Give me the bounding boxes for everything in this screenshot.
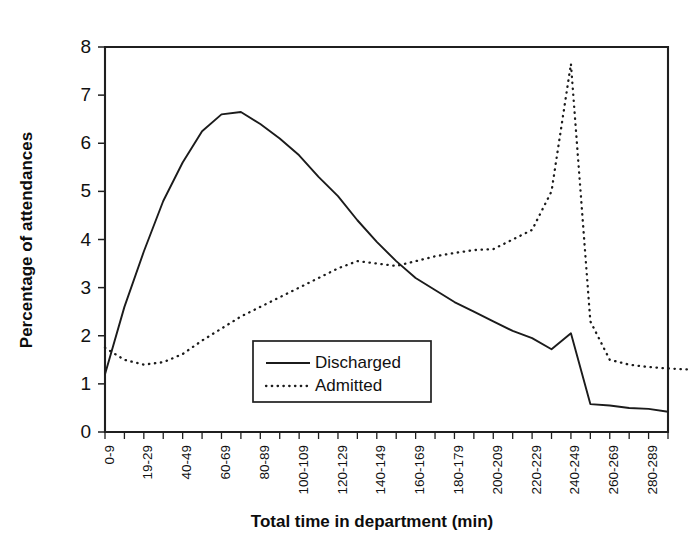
y-tick-label-2: 2: [80, 325, 91, 346]
x-axis-title: Total time in department (min): [251, 512, 493, 531]
x-tick-label-9: 180-179: [451, 445, 466, 495]
y-axis-title: Percentage of attendances: [17, 132, 36, 348]
x-tick-label-4: 80-89: [257, 445, 272, 480]
x-tick-label-5: 100-109: [296, 445, 311, 495]
line-chart: 012345678 0-919-2940-4960-6980-89100-109…: [0, 0, 697, 559]
chart-legend: Discharged Admitted: [253, 341, 431, 402]
x-tick-label-0: 0-9: [102, 445, 117, 465]
x-tick-label-14: 280-289: [645, 445, 660, 495]
x-tick-label-3: 60-69: [218, 445, 233, 480]
y-tick-label-0: 0: [80, 421, 91, 442]
y-tick-label-6: 6: [80, 132, 91, 153]
y-tick-label-4: 4: [80, 229, 91, 250]
legend-label-admitted: Admitted: [315, 376, 382, 395]
series-admitted: [105, 64, 687, 370]
chart-figure: 012345678 0-919-2940-4960-6980-89100-109…: [0, 0, 697, 559]
y-tick-label-5: 5: [80, 180, 91, 201]
y-tick-label-1: 1: [80, 373, 91, 394]
x-tick-label-1: 19-29: [140, 445, 155, 480]
x-tick-label-2: 40-49: [179, 445, 194, 480]
y-tick-label-7: 7: [80, 84, 91, 105]
y-tick-label-3: 3: [80, 277, 91, 298]
x-tick-label-12: 240-249: [567, 445, 582, 495]
legend-label-discharged: Discharged: [315, 353, 401, 372]
x-axis-tick-labels: 0-919-2940-4960-6980-89100-109120-129140…: [102, 445, 661, 495]
y-axis-tick-labels: 012345678: [80, 36, 91, 442]
x-tick-label-6: 120-129: [335, 445, 350, 495]
x-tick-label-11: 220-229: [529, 445, 544, 495]
x-tick-label-7: 140-149: [373, 445, 388, 495]
x-tick-label-13: 260-269: [606, 445, 621, 495]
x-tick-label-8: 160-169: [412, 445, 427, 495]
y-tick-label-8: 8: [80, 36, 91, 57]
x-tick-label-10: 200-209: [490, 445, 505, 495]
